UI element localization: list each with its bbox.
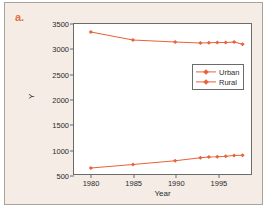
chart-legend: Urban Rural <box>192 64 244 90</box>
x-tick-mark <box>91 174 92 178</box>
data-point-marker <box>198 156 202 160</box>
x-tick-mark <box>133 174 134 178</box>
plot-axes: Urban Rural 5001000150020002500300035001… <box>73 23 252 175</box>
data-point-marker <box>173 40 177 44</box>
legend-label-rural: Rural <box>219 78 237 87</box>
y-tick-label: 1500 <box>52 121 69 130</box>
data-point-marker <box>173 159 177 163</box>
y-tick-mark <box>70 100 74 101</box>
figure-panel-a: a. Y Urban Rural <box>0 0 269 213</box>
y-tick-label: 1000 <box>52 146 69 155</box>
y-tick-mark <box>70 24 74 25</box>
y-tick-label: 2000 <box>52 96 69 105</box>
data-point-marker <box>232 153 236 157</box>
y-tick-mark <box>70 74 74 75</box>
y-tick-label: 2500 <box>52 70 69 79</box>
data-point-marker <box>215 40 219 44</box>
data-point-marker <box>224 154 228 158</box>
data-point-marker <box>89 30 93 34</box>
x-axis-title: Year <box>73 189 252 198</box>
data-point-marker <box>207 155 211 159</box>
y-tick-mark <box>70 49 74 50</box>
x-tick-mark <box>218 174 219 178</box>
legend-item-rural: Rural <box>196 77 239 87</box>
y-tick-mark <box>70 150 74 151</box>
data-point-marker <box>240 42 244 46</box>
y-tick-label: 3000 <box>52 45 69 54</box>
legend-label-urban: Urban <box>219 68 239 77</box>
data-point-marker <box>131 162 135 166</box>
series-line-urban <box>91 32 243 44</box>
data-point-marker <box>215 155 219 159</box>
y-tick-mark <box>70 125 74 126</box>
data-point-marker <box>232 40 236 44</box>
legend-marker-rural-icon <box>196 78 216 87</box>
y-tick-label: 3500 <box>52 20 69 29</box>
panel-letter-label: a. <box>15 11 24 23</box>
legend-marker-urban-icon <box>196 68 216 77</box>
plot-container: Y Urban Rural <box>29 9 261 201</box>
data-point-marker <box>198 41 202 45</box>
legend-item-urban: Urban <box>196 67 239 77</box>
y-axis-title: Y <box>27 94 36 99</box>
data-point-marker <box>224 40 228 44</box>
x-tick-label: 1995 <box>211 179 228 188</box>
y-tick-label: 500 <box>56 172 69 181</box>
x-tick-label: 1990 <box>168 179 185 188</box>
data-point-marker <box>89 166 93 170</box>
data-point-marker <box>207 41 211 45</box>
x-tick-label: 1980 <box>83 179 100 188</box>
data-series-layer <box>74 24 251 174</box>
data-point-marker <box>240 153 244 157</box>
figure-frame: a. Y Urban Rural <box>4 2 263 205</box>
data-point-marker <box>131 38 135 42</box>
y-tick-mark <box>70 176 74 177</box>
series-line-rural <box>91 155 243 168</box>
x-tick-mark <box>176 174 177 178</box>
x-tick-label: 1985 <box>125 179 142 188</box>
